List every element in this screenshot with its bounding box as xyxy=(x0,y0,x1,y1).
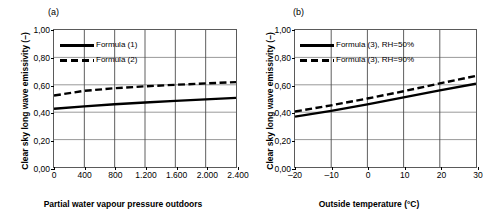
panel-a-xtick-label-0: 0 xyxy=(52,171,57,180)
figure-clear-sky-emissivity: (a) Clear sky long wave emissivity (–) xyxy=(0,0,492,215)
legend-label-formula-3-rh50: Formula (3), RH=50% xyxy=(336,41,414,49)
legend-label-formula-1: Formula (1) xyxy=(96,41,137,49)
dashed-line-swatch-icon xyxy=(60,59,94,62)
panel-b-ytick-mark-0.40 xyxy=(292,113,295,114)
panel-a-ytick-label-0.60: 0,60 xyxy=(33,81,50,90)
panel-b-ytick-label-0.20: 0,20 xyxy=(274,137,291,146)
dashed-line-swatch-icon xyxy=(300,59,334,62)
panel-b-xtick-label--20: –20 xyxy=(288,171,302,180)
panel-a-xtick-label-400: 400 xyxy=(78,171,92,180)
panel-b-series-formula-3-rh90 xyxy=(295,76,476,112)
panel-b-xtick-label-20: 20 xyxy=(437,171,446,180)
panel-a-xtick-label-1600: 1.600 xyxy=(166,171,187,180)
legend-label-formula-3-rh90: Formula (3), RH=90% xyxy=(336,56,414,64)
panel-b-xtick-label-0: 0 xyxy=(366,171,371,180)
panel-a-y-axis-label: Clear sky long wave emissivity (–) xyxy=(20,26,30,176)
panel-a-xtick-label-1200: 1.200 xyxy=(135,171,156,180)
panel-a-ytick-label-0.80: 0,80 xyxy=(33,54,50,63)
chart-panel-b: (b) Clear sky long wave emissivity (–) xyxy=(246,0,492,215)
panel-b-ytick-mark-0.80 xyxy=(292,58,295,59)
panel-b-ytick-mark-0.20 xyxy=(292,141,295,142)
panel-a-xtick-label-800: 800 xyxy=(108,171,122,180)
panel-b-label: (b) xyxy=(293,7,304,17)
panel-b-ytick-label-0.80: 0,80 xyxy=(274,54,291,63)
panel-a-ytick-label-1.00: 1,00 xyxy=(33,26,50,35)
panel-a-ytick-label-0.00: 0,00 xyxy=(33,165,50,174)
legend-item-formula-1: Formula (1) xyxy=(60,41,137,49)
panel-a-ytick-label-0.40: 0,40 xyxy=(33,109,50,118)
solid-line-swatch-icon xyxy=(300,44,334,47)
panel-a-plot-area: 1,00 0,80 0,60 0,40 0,20 0,00 0 400 800 … xyxy=(53,29,237,168)
panel-a-x-axis-label: Partial water vapour pressure outdoors xyxy=(0,199,246,209)
panel-b-ytick-mark-0.60 xyxy=(292,86,295,87)
legend-label-formula-2: Formula (2) xyxy=(96,56,137,64)
panel-b-plot-area: 1,00 0,80 0,60 0,40 0,20 0,00 –20 –10 0 … xyxy=(294,29,477,168)
panel-b-x-axis-label: Outside temperature (°C) xyxy=(246,199,492,209)
legend-item-formula-3-rh90: Formula (3), RH=90% xyxy=(300,56,414,64)
panel-b-xtick-label-30: 30 xyxy=(473,171,482,180)
panel-a-ytick-mark-0.60 xyxy=(51,86,54,87)
chart-panel-a: (a) Clear sky long wave emissivity (–) xyxy=(0,0,246,215)
panel-b-ytick-label-0.60: 0,60 xyxy=(274,81,291,90)
panel-a-xtick-label-2000: 2.000 xyxy=(197,171,218,180)
panel-b-y-axis-label: Clear sky long wave emissivity (–) xyxy=(265,26,275,176)
panel-b-xtick-label--10: –10 xyxy=(325,171,339,180)
solid-line-swatch-icon xyxy=(60,44,94,47)
panel-b-ytick-mark-1.00 xyxy=(292,30,295,31)
panel-b-series-formula-3-rh50 xyxy=(295,84,476,117)
panel-b-ytick-label-1.00: 1,00 xyxy=(274,26,291,35)
panel-a-label: (a) xyxy=(48,7,59,17)
legend-item-formula-2: Formula (2) xyxy=(60,56,137,64)
panel-a-ytick-mark-0.20 xyxy=(51,141,54,142)
panel-a-ytick-mark-0.80 xyxy=(51,58,54,59)
panel-b-ytick-label-0.40: 0,40 xyxy=(274,109,291,118)
legend-item-formula-3-rh50: Formula (3), RH=50% xyxy=(300,41,414,49)
panel-b-legend: Formula (3), RH=50% Formula (3), RH=90% xyxy=(300,41,414,71)
panel-a-legend: Formula (1) Formula (2) xyxy=(60,41,137,71)
panel-a-ytick-mark-1.00 xyxy=(51,30,54,31)
panel-a-ytick-mark-0.40 xyxy=(51,113,54,114)
panel-b-xtick-label-10: 10 xyxy=(400,171,409,180)
panel-a-ytick-label-0.20: 0,20 xyxy=(33,137,50,146)
